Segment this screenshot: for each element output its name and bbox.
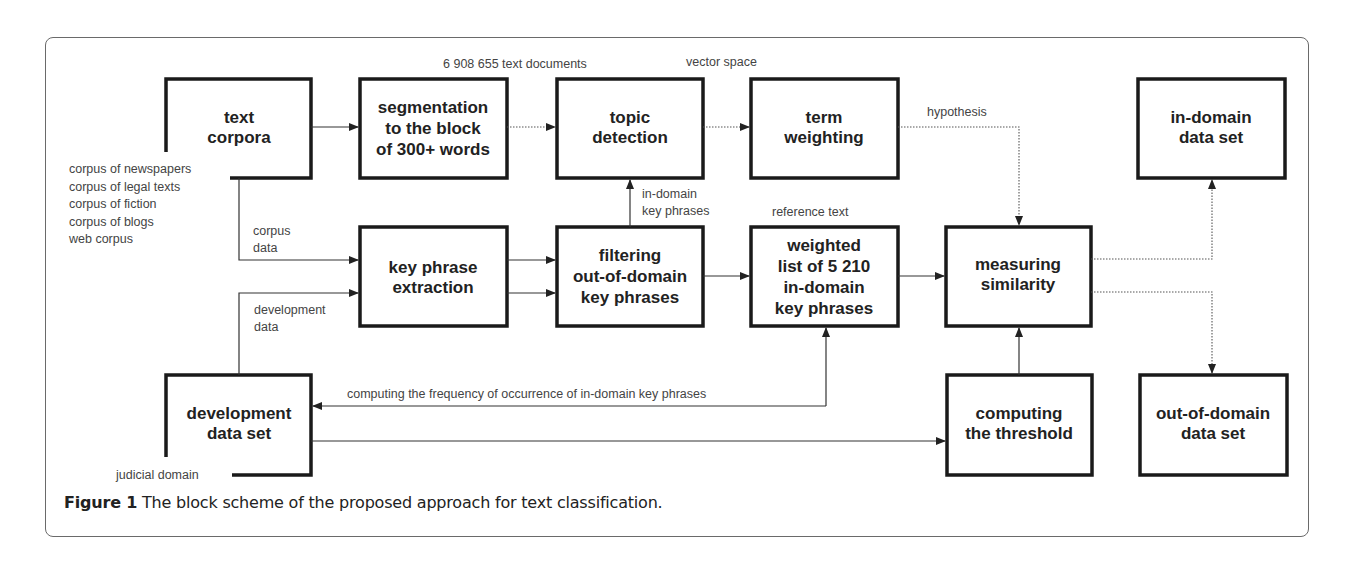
note-hypothesis: hypothesis (927, 105, 987, 119)
topic-detection-label: topicdetection (592, 108, 668, 147)
note-judicial-domain: judicial domain (115, 468, 199, 482)
figure-caption-label: Figure 1 (64, 493, 137, 512)
filtering-label: filteringout-of-domainkey phrases (573, 246, 687, 307)
threshold-label: computingthe threshold (965, 404, 1073, 443)
arrow-to-in-domain (1091, 180, 1212, 259)
note-frequency: computing the frequency of occurrence of… (347, 387, 706, 401)
note-development-data: developmentdata (254, 303, 326, 334)
text-corpora-label: textcorpora (207, 108, 271, 147)
block-diagram: textcorpora segmentationto the blockof 3… (0, 0, 1359, 569)
term-weighting-label: termweighting (783, 108, 863, 147)
weighted-list-label: weightedlist of 5 210in-domainkey phrase… (775, 236, 873, 318)
note-corpus-data: corpusdata (253, 224, 291, 255)
arrow-hypothesis (898, 127, 1019, 225)
arrow-to-out-of-domain (1091, 292, 1212, 373)
figure-caption-text: The block scheme of the proposed approac… (137, 493, 662, 512)
segmentation-label: segmentationto the blockof 300+ words (376, 98, 490, 159)
out-of-domain-label: out-of-domaindata set (1156, 404, 1270, 443)
note-corpora-list: corpus of newspapers corpus of legal tex… (68, 162, 195, 246)
in-domain-label: in-domaindata set (1170, 108, 1251, 147)
measuring-label: measuringsimilarity (975, 255, 1061, 294)
note-reference-text: reference text (772, 205, 849, 219)
note-documents: 6 908 655 text documents (443, 57, 587, 71)
key-phrase-label: key phraseextraction (389, 258, 478, 297)
development-label: developmentdata set (187, 404, 292, 443)
note-vector-space: vector space (686, 55, 757, 69)
note-in-domain-key-phrases: in-domainkey phrases (642, 187, 709, 218)
figure-caption: Figure 1 The block scheme of the propose… (64, 493, 663, 512)
